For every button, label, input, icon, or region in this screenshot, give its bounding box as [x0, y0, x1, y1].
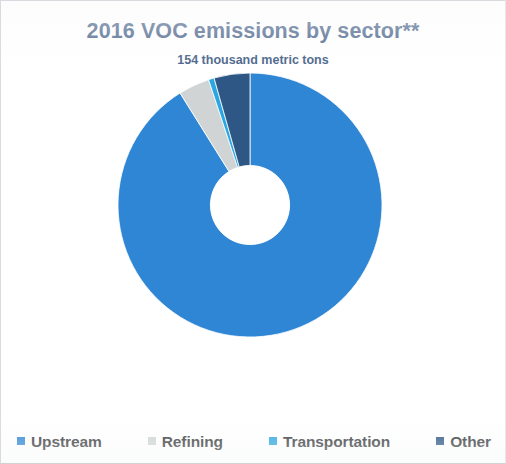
- page-title: 2016 VOC emissions by sector**: [1, 19, 505, 44]
- legend-label-refining: Refining: [162, 434, 223, 450]
- legend-label-other: Other: [450, 434, 491, 450]
- legend-item-refining[interactable]: Refining: [148, 434, 223, 450]
- donut-chart-svg: [1, 68, 506, 368]
- legend-label-upstream: Upstream: [31, 434, 102, 450]
- donut-chart-plot-area: [1, 68, 506, 368]
- legend-swatch-other-icon: [436, 437, 444, 445]
- legend-label-transportation: Transportation: [283, 434, 390, 450]
- chart-header: 2016 VOC emissions by sector** 154 thous…: [1, 1, 505, 68]
- chart-subtitle: 154 thousand metric tons: [1, 44, 505, 68]
- legend-swatch-transportation-icon: [269, 437, 277, 445]
- legend-swatch-refining-icon: [148, 437, 156, 445]
- legend-item-upstream[interactable]: Upstream: [17, 434, 102, 450]
- chart-legend: Upstream Refining Transportation Other: [1, 434, 505, 450]
- legend-item-transportation[interactable]: Transportation: [269, 434, 390, 450]
- donut-center-hole: [210, 165, 289, 244]
- chart-card: 2016 VOC emissions by sector** 154 thous…: [0, 0, 506, 464]
- legend-swatch-upstream-icon: [17, 437, 25, 445]
- legend-item-other[interactable]: Other: [436, 434, 491, 450]
